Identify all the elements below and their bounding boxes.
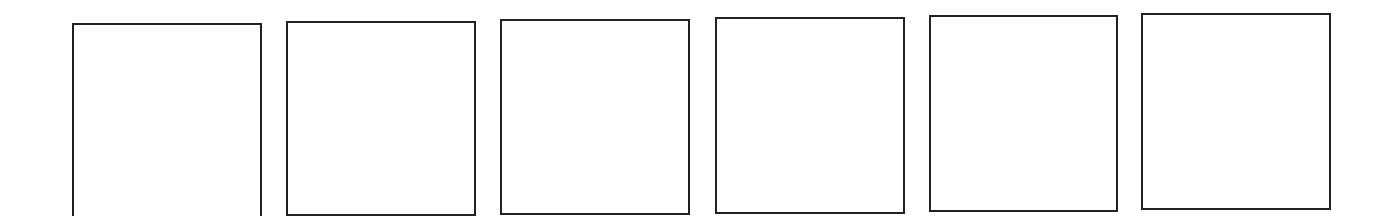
- empty-box-1: [72, 23, 262, 216]
- empty-box-5: [929, 15, 1118, 212]
- empty-box-4: [715, 17, 905, 214]
- empty-box-3: [500, 19, 690, 215]
- empty-box-2: [286, 21, 476, 216]
- empty-box-6: [1141, 13, 1331, 210]
